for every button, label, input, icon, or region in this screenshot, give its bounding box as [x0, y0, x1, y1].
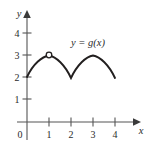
x-tick-label-2: 2: [69, 129, 74, 140]
x-tick-label-4: 4: [113, 129, 118, 140]
x-axis-label: x: [138, 125, 144, 136]
open-circle-marker-icon: [46, 52, 52, 58]
function-curve: [27, 56, 115, 79]
function-graph-figure: 1 2 3 4 0 1 2 3 4 y x y = g(x): [0, 0, 150, 157]
y-tick-label-2: 2: [15, 72, 20, 83]
y-axis-label: y: [16, 8, 22, 19]
curve-label: y = g(x): [70, 37, 105, 49]
x-tick-label-3: 3: [91, 129, 96, 140]
chart-canvas: 1 2 3 4 0 1 2 3 4 y x y = g(x): [0, 0, 150, 157]
y-tick-label-1: 1: [15, 94, 20, 105]
y-axis-arrow-icon: [23, 10, 31, 18]
x-axis: [17, 118, 141, 126]
origin-label: 0: [18, 129, 23, 140]
y-tick-label-3: 3: [15, 50, 20, 61]
y-tick-label-4: 4: [15, 28, 20, 39]
x-tick-label-1: 1: [47, 129, 52, 140]
